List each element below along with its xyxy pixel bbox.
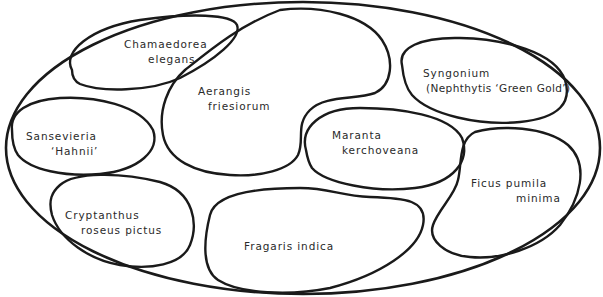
label-cryptanthus-line2: roseus pictus bbox=[65, 223, 162, 238]
label-cryptanthus-line1: Cryptanthus bbox=[65, 208, 162, 223]
label-aerangis-line1: Aerangis bbox=[198, 84, 270, 99]
label-fragaris: Fragaris indica bbox=[244, 239, 334, 254]
label-fragaris-line1: Fragaris indica bbox=[244, 239, 334, 254]
label-aerangis: Aerangis friesiorum bbox=[198, 84, 270, 114]
label-maranta-line2: kerchoveana bbox=[332, 143, 419, 158]
label-ficus-line2: minima bbox=[471, 191, 561, 206]
label-syngonium: Syngonium (Nephthytis ‘Green Gold’) bbox=[423, 66, 571, 96]
label-syngonium-line1: Syngonium bbox=[423, 66, 571, 81]
label-chamaedorea-line2: elegans bbox=[124, 52, 208, 67]
label-sansevieria-line2: ‘Hahnii’ bbox=[26, 144, 98, 159]
label-cryptanthus: Cryptanthus roseus pictus bbox=[65, 208, 162, 238]
label-maranta: Maranta kerchoveana bbox=[332, 128, 419, 158]
label-chamaedorea: Chamaedorea elegans bbox=[124, 37, 208, 67]
label-ficus-line1: Ficus pumila bbox=[471, 176, 561, 191]
label-maranta-line1: Maranta bbox=[332, 128, 419, 143]
label-chamaedorea-line1: Chamaedorea bbox=[124, 37, 208, 52]
label-aerangis-line2: friesiorum bbox=[198, 99, 270, 114]
label-sansevieria-line1: Sansevieria bbox=[26, 129, 98, 144]
label-sansevieria: Sansevieria ‘Hahnii’ bbox=[26, 129, 98, 159]
label-syngonium-line2: (Nephthytis ‘Green Gold’) bbox=[426, 81, 571, 96]
label-ficus: Ficus pumila minima bbox=[471, 176, 561, 206]
